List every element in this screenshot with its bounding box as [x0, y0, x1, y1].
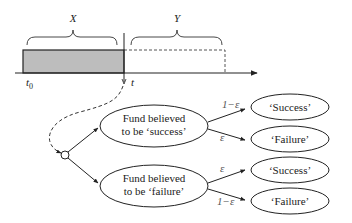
- svg-text:‘Success’: ‘Success’: [269, 164, 311, 176]
- dashed-period-y: [124, 50, 225, 73]
- edge-label-3: ε: [220, 162, 225, 174]
- svg-text:‘Success’: ‘Success’: [269, 101, 311, 113]
- edge-success-belief-to-failure: [208, 129, 245, 140]
- edge-failure-belief-to-success: [208, 170, 245, 183]
- svg-text:‘Failure’: ‘Failure’: [271, 133, 309, 145]
- brace-y-label: Y: [174, 12, 182, 24]
- outcome-node-4: ‘Failure’: [251, 188, 329, 214]
- belief-node-failure: Fund believed to be ‘failure’: [100, 165, 208, 207]
- svg-text:to be ‘failure’: to be ‘failure’: [124, 185, 184, 197]
- edge-success-belief-to-success: [208, 109, 245, 122]
- svg-text:‘Failure’: ‘Failure’: [271, 195, 309, 207]
- diagram-canvas: X Y t0 t Fund believed to be ‘success’ F…: [0, 0, 352, 223]
- edge-root-to-success-belief: [68, 128, 98, 152]
- shaded-period-x: [23, 50, 124, 73]
- edge-label-2: ε: [220, 131, 225, 143]
- brace-x: X: [27, 12, 117, 45]
- edge-label-1: 1−ε: [222, 98, 240, 110]
- edge-root-to-failure-belief: [68, 158, 98, 183]
- svg-text:to be ‘success’: to be ‘success’: [122, 125, 187, 137]
- root-node: [61, 151, 69, 159]
- brace-y: Y: [131, 12, 222, 45]
- edge-label-4: 1−ε: [217, 195, 235, 207]
- svg-text:Fund believed: Fund believed: [123, 112, 186, 124]
- t-label: t: [131, 76, 135, 88]
- t0-label: t0: [26, 76, 33, 91]
- belief-node-success: Fund believed to be ‘success’: [100, 105, 208, 147]
- outcome-node-2: ‘Failure’: [251, 126, 329, 152]
- outcome-node-1: ‘Success’: [251, 94, 329, 120]
- outcome-node-3: ‘Success’: [251, 157, 329, 183]
- svg-text:Fund believed: Fund believed: [123, 172, 186, 184]
- brace-x-label: X: [69, 12, 78, 24]
